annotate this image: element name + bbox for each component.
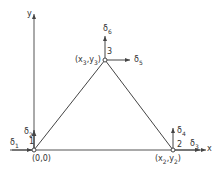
coord-2: (x2,y2)	[155, 155, 181, 165]
dof-d6-label: δ6	[103, 25, 112, 35]
node-2	[171, 148, 175, 152]
dof-d1-label: δ1	[10, 139, 19, 149]
x-axis-label: x	[207, 145, 212, 153]
node-3	[103, 58, 107, 62]
dof-d3-label: δ3	[190, 140, 199, 150]
coord-1: (0,0)	[32, 155, 51, 163]
edge-1-3	[34, 60, 105, 150]
node-3-label: 3	[107, 48, 112, 56]
dof-d4-label: δ4	[177, 127, 186, 137]
dof-d2-label: δ2	[24, 128, 33, 138]
y-axis-label: y	[27, 10, 32, 18]
node-2-label: 2	[177, 141, 182, 149]
edge-3-2	[105, 60, 173, 150]
coord-3: (x3,y3)	[75, 56, 101, 66]
node-1	[32, 148, 36, 152]
dof-d5-label: δ5	[134, 56, 143, 66]
node-1-label: 1	[29, 138, 34, 146]
